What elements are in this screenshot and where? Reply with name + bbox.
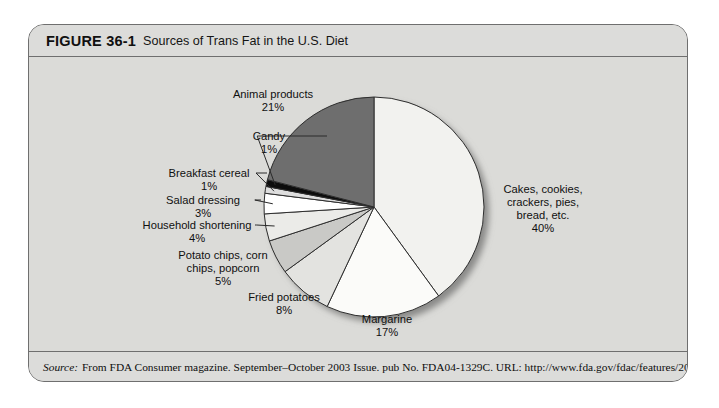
figure-caption: Sources of Trans Fat in the U.S. Diet: [143, 34, 348, 48]
pie-slice-label: Animal products21%: [233, 88, 314, 113]
figure-card: FIGURE 36-1 Sources of Trans Fat in the …: [28, 24, 688, 382]
pie-chart-svg: Cakes, cookies,crackers, pies,bread, etc…: [29, 57, 687, 351]
pie-slice-label: Fried potatoes8%: [248, 291, 320, 316]
pie-slice-label: Household shortening4%: [143, 219, 252, 244]
pie-slice-label: Margarine17%: [362, 313, 412, 338]
figure-number: FIGURE 36-1: [46, 33, 136, 49]
source-label: Source:: [43, 361, 78, 373]
pie-slice-label: Breakfast cereal1%: [169, 167, 250, 192]
pie-chart-plot-area: Cakes, cookies,crackers, pies,bread, etc…: [29, 57, 687, 351]
source-text: From FDA Consumer magazine. September–Oc…: [82, 361, 688, 373]
pie-slice-label: Salad dressing3%: [166, 194, 240, 219]
pie-slices: [264, 97, 484, 317]
pie-slice-label: Potato chips, cornchips, popcorn5%: [178, 249, 268, 287]
figure-header: FIGURE 36-1 Sources of Trans Fat in the …: [29, 25, 687, 57]
source-band: Source: From FDA Consumer magazine. Sept…: [29, 351, 687, 381]
pie-slice-label: Cakes, cookies,crackers, pies,bread, etc…: [504, 183, 583, 234]
